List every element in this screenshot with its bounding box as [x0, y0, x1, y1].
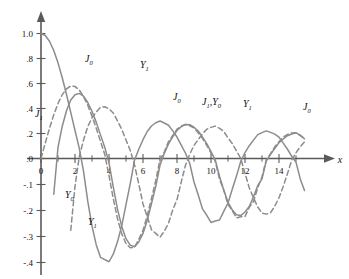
y-tick-label: .2 [26, 129, 33, 139]
x-tick-label: 6 [141, 166, 146, 176]
annotation-ann-y1-2: Y1 [243, 98, 252, 111]
curves [41, 34, 305, 262]
y-tick-label: .8 [26, 54, 33, 64]
annotation-ann-j0-3: J0 [303, 101, 311, 114]
annotation-ann-j0-1: J0 [85, 53, 93, 66]
x-tick-label: 0 [39, 166, 44, 176]
y-tick-label: -.4 [23, 258, 33, 268]
annotation-ann-y1-3: Y1 [88, 216, 97, 229]
y-axis-arrow [37, 11, 45, 22]
y-tick-label: -.1 [23, 180, 33, 190]
curve-j0 [41, 34, 305, 262]
chart-figure: 024681012141.0.8.6.4.2.0-.1-.2-.3-.4J0Y1… [0, 0, 349, 279]
annotation-ann-j1y0: J1,Y0 [202, 96, 222, 109]
x-tick-label: 8 [175, 166, 180, 176]
y-tick-label: .6 [26, 79, 33, 89]
x-axis-label: x [337, 154, 343, 165]
y-tick-label: .0 [26, 154, 33, 164]
y-tick-label: .4 [26, 104, 33, 114]
annotation-ann-j0-2: J0 [173, 91, 181, 104]
bessel-functions-plot: 024681012141.0.8.6.4.2.0-.1-.2-.3-.4J0Y1… [0, 0, 349, 279]
annotation-ann-y0-1: Y0 [65, 189, 75, 202]
y-tick-label: 1.0 [22, 29, 34, 39]
annotation-ann-y1-1: Y1 [140, 59, 149, 72]
x-axis-arrow [324, 154, 335, 162]
y-tick-label: -.2 [23, 206, 33, 216]
x-tick-label: 10 [207, 166, 217, 176]
curve-annotations: J0Y1J1J0J1,Y0Y1J0Y0Y1 [35, 53, 311, 229]
y-tick-label: -.3 [23, 232, 33, 242]
y-axis-ticks: 1.0.8.6.4.2.0-.1-.2-.3-.4 [22, 29, 46, 268]
x-tick-label: 14 [275, 166, 285, 176]
